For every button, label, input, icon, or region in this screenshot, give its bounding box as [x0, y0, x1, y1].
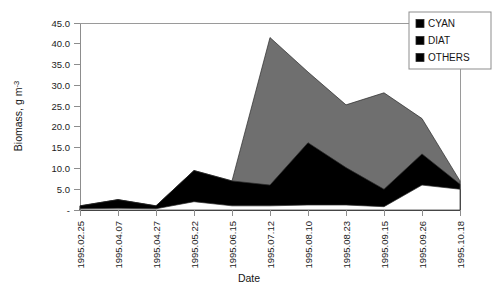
y-tick-label: 45.0 — [52, 18, 71, 29]
x-tick-label: 1995.08.23 — [341, 221, 352, 269]
x-axis-title: Date — [238, 272, 260, 284]
legend-swatch-others — [416, 54, 424, 62]
legend-label-others: OTHERS — [428, 52, 470, 63]
y-axis-title-main: Biomass, g m — [12, 87, 24, 151]
y-tick-label: 40.0 — [52, 38, 71, 49]
y-tick-label: 35.0 — [52, 59, 71, 70]
y-tick-label: 10.0 — [52, 163, 71, 174]
legend-label-cyan: CYAN — [428, 18, 455, 29]
y-axis-title: Biomass, g m-3 — [12, 81, 25, 151]
y-tick-label: 20.0 — [52, 121, 71, 132]
y-tick-label: - — [67, 205, 70, 216]
y-tick-label: 25.0 — [52, 101, 71, 112]
x-tick-label: 1995.07.12 — [265, 221, 276, 269]
x-tick-label: 1995.04.07 — [113, 221, 124, 269]
y-axis-title-exponent: -3 — [12, 81, 21, 88]
x-tick-label: 1995.02.25 — [75, 221, 86, 269]
x-tick-label: 1995.05.22 — [189, 221, 200, 269]
x-tick-label: 1995.09.15 — [379, 221, 390, 269]
x-tick-label: 1995.06.15 — [227, 221, 238, 269]
legend-swatch-diat — [416, 37, 424, 45]
x-tick-label: 1995.08.10 — [303, 221, 314, 269]
legend: CYAN DIAT OTHERS — [409, 12, 491, 69]
legend-label-diat: DIAT — [428, 35, 450, 46]
y-tick-label: 15.0 — [52, 142, 71, 153]
y-tick-label: 30.0 — [52, 80, 71, 91]
legend-swatch-cyan — [416, 20, 424, 28]
x-tick-label: 1995.09.26 — [417, 221, 428, 269]
x-tick-label: 1995.10.18 — [455, 221, 466, 269]
y-tick-label: 5.0 — [57, 184, 70, 195]
stacked-area-chart: - 5.0 10.0 15.0 20.0 25.0 30.0 35.0 40.0… — [0, 0, 500, 295]
x-tick-label: 1995.04.27 — [151, 221, 162, 269]
